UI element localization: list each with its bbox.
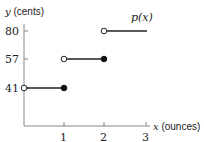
- y-tick-label-80: 80: [5, 25, 19, 38]
- x-tick-label-3: 3: [142, 131, 149, 142]
- closed-endpoint-2: [101, 56, 107, 62]
- y-axis-unit: (cents): [11, 6, 44, 17]
- x-tick-label-2: 2: [100, 131, 107, 142]
- step-function-chart: 80 57 41 1 2 3 y (cents) x (ounces) p(x): [0, 0, 204, 142]
- x-axis-unit: (ounces): [159, 121, 201, 132]
- closed-endpoint-1: [61, 85, 67, 91]
- y-tick-label-57: 57: [5, 53, 19, 66]
- open-endpoint-1: [61, 56, 67, 62]
- open-endpoint-2: [101, 28, 107, 34]
- y-axis-label: y (cents): [4, 6, 44, 17]
- function-label: p(x): [131, 11, 153, 24]
- y-tick-label-41: 41: [5, 82, 19, 95]
- x-tick-label-1: 1: [60, 131, 67, 142]
- open-endpoint-0: [21, 85, 27, 91]
- x-axis-label: x (ounces): [153, 121, 200, 132]
